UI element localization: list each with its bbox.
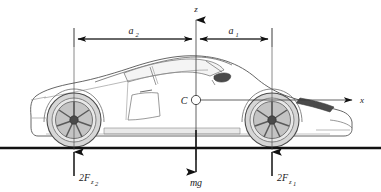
centre-of-mass-marker bbox=[191, 95, 200, 104]
force-label-front-subscript: z bbox=[288, 178, 292, 185]
dimension-label-a2-base: a bbox=[129, 25, 134, 36]
force-label-front-subsubscript: 1 bbox=[293, 180, 296, 187]
force-label-rear-base: 2F bbox=[79, 172, 91, 183]
centre-of-mass-label: C bbox=[181, 95, 188, 106]
force-label-front-base: 2F bbox=[277, 172, 289, 183]
force-arrows bbox=[74, 130, 272, 176]
diagram-canvas: z x C a 2 a 1 2F z 2 mg 2F z 1 bbox=[0, 0, 381, 192]
dimension-label-a2-subscript: 2 bbox=[135, 31, 139, 38]
free-body-diagram: z x C a 2 a 1 2F z 2 mg 2F z 1 bbox=[0, 0, 381, 192]
force-label-rear-subsubscript: 2 bbox=[95, 180, 99, 187]
force-label-rear: 2F z 2 bbox=[79, 172, 99, 187]
dimension-lines bbox=[74, 28, 272, 47]
dimension-label-a1-subscript: 1 bbox=[235, 31, 238, 38]
dimension-label-a1: a 1 bbox=[229, 25, 239, 38]
weight-label: mg bbox=[190, 177, 202, 188]
car-side-skirt bbox=[104, 128, 240, 134]
x-axis-label: x bbox=[359, 95, 364, 105]
z-axis-label: z bbox=[193, 4, 198, 14]
force-label-rear-subscript: z bbox=[90, 178, 94, 185]
force-label-front: 2F z 1 bbox=[277, 172, 296, 187]
dimension-label-a1-base: a bbox=[229, 25, 234, 36]
dimension-label-a2: a 2 bbox=[129, 25, 140, 38]
